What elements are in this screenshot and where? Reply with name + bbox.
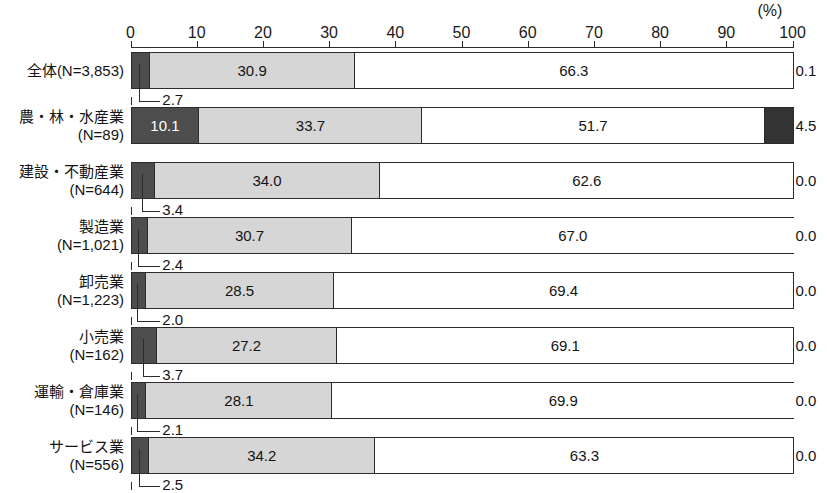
segment-4-outside-value: 0.0 — [796, 447, 817, 464]
x-axis-tick-mark — [528, 41, 529, 47]
callout-elbow — [139, 486, 161, 487]
category-label: 製造業(N=1,021) — [57, 218, 124, 254]
bar-segment-1: 10.1 — [132, 108, 199, 143]
stacked-bar: 2.430.767.00.0 — [131, 217, 794, 254]
bar-segment-3: 62.6 — [379, 163, 793, 198]
segment-value: 67.0 — [558, 227, 587, 244]
x-axis-tick-mark — [726, 41, 727, 47]
x-axis-tick-mark — [594, 41, 595, 47]
stacked-bar: 2.028.569.40.0 — [131, 272, 794, 309]
category-label: 運輸・倉庫業(N=146) — [34, 383, 124, 419]
callout-value: 2.1 — [162, 421, 183, 438]
stacked-bar: 2.534.263.30.0 — [131, 437, 794, 474]
x-axis-tick-label: 10 — [188, 24, 206, 42]
segment-value: 28.5 — [225, 282, 254, 299]
stacked-bar: 10.133.751.74.5 — [131, 107, 794, 144]
category-label-line: 運輸・倉庫業 — [34, 383, 124, 401]
bar-segment-2: 33.7 — [198, 108, 421, 143]
segment-4-outside-value: 0.0 — [796, 282, 817, 299]
x-axis-tick-label: 30 — [320, 24, 338, 42]
callout-stem — [138, 229, 139, 266]
callout-stem — [137, 284, 138, 321]
bar-segment-1: 3.7 — [132, 328, 156, 363]
callout-value: 2.0 — [162, 311, 183, 328]
callout-stem — [139, 449, 140, 486]
callout-origin-tick — [131, 372, 132, 380]
category-label-line: (N=89) — [19, 126, 124, 144]
segment-4-outside-value: 4.5 — [796, 117, 817, 134]
category-label-line: (N=146) — [34, 401, 124, 419]
segment-value: 69.9 — [549, 392, 578, 409]
bar-segment-2: 34.2 — [148, 438, 374, 473]
segment-value: 33.7 — [296, 117, 325, 134]
category-label-line: (N=162) — [69, 346, 124, 364]
callout-stem — [139, 64, 140, 101]
bar-segment-2: 34.0 — [154, 163, 379, 198]
x-axis-tick-mark — [660, 41, 661, 47]
category-label-line: サービス業 — [49, 438, 124, 456]
bar-segment-1: 2.7 — [132, 53, 150, 88]
callout-value: 2.5 — [162, 476, 183, 493]
segment-value: 69.4 — [549, 282, 578, 299]
bar-segment-2: 30.9 — [149, 53, 354, 88]
x-axis-tick-label: 50 — [453, 24, 471, 42]
callout-value: 3.7 — [162, 366, 183, 383]
x-axis-tick-mark — [329, 41, 330, 47]
category-label-line: (N=1,021) — [57, 236, 124, 254]
bar-segment-2: 28.5 — [145, 273, 334, 308]
category-label-line: 製造業 — [57, 218, 124, 236]
segment-value: 27.2 — [232, 337, 261, 354]
x-axis-tick-mark — [197, 41, 198, 47]
category-label-line: (N=644) — [19, 181, 124, 199]
x-axis-tick-label: 80 — [651, 24, 669, 42]
bar-segment-3: 66.3 — [354, 53, 793, 88]
callout-elbow — [137, 321, 160, 322]
x-axis-tick-label: 20 — [254, 24, 272, 42]
segment-value: 62.6 — [572, 172, 601, 189]
category-label-line: 卸売業 — [57, 273, 124, 291]
segment-value: 28.1 — [224, 392, 253, 409]
callout-elbow — [138, 266, 160, 267]
bar-segment-1: 2.4 — [132, 218, 148, 253]
callout-stem — [142, 174, 143, 211]
callout-origin-tick — [131, 97, 132, 105]
x-axis-tick-mark — [462, 41, 463, 47]
category-label: 卸売業(N=1,223) — [57, 273, 124, 309]
category-label-line: (N=556) — [49, 456, 124, 474]
stacked-bar: 3.434.062.60.0 — [131, 162, 794, 199]
stacked-bar: 2.128.169.90.0 — [131, 382, 794, 419]
segment-value: 30.7 — [235, 227, 264, 244]
x-axis-tick-label: 40 — [386, 24, 404, 42]
segment-value: 34.2 — [247, 447, 276, 464]
callout-stem — [143, 339, 144, 376]
segment-4-outside-value: 0.0 — [796, 392, 817, 409]
callout-elbow — [142, 211, 161, 212]
segment-value: 51.7 — [578, 117, 607, 134]
segment-value: 10.1 — [150, 117, 179, 134]
segment-value: 63.3 — [570, 447, 599, 464]
callout-elbow — [137, 431, 160, 432]
callout-origin-tick — [131, 427, 132, 435]
bar-segment-2: 30.7 — [147, 218, 350, 253]
stacked-bar: 2.730.966.30.1 — [131, 52, 794, 89]
segment-4-outside-value: 0.0 — [796, 227, 817, 244]
x-axis-tick-label: 70 — [585, 24, 603, 42]
bar-segment-3: 63.3 — [374, 438, 793, 473]
category-label-line: 全体(N=3,853) — [27, 62, 124, 80]
category-label: 小売業(N=162) — [69, 328, 124, 364]
bar-segment-3: 69.1 — [336, 328, 793, 363]
segment-value: 34.0 — [252, 172, 281, 189]
x-axis-tick-mark — [793, 41, 794, 47]
callout-value: 2.7 — [162, 91, 183, 108]
callout-value: 2.4 — [162, 256, 183, 273]
callout-origin-tick — [131, 262, 132, 270]
bar-segment-3: 67.0 — [351, 218, 795, 253]
callout-stem — [137, 394, 138, 431]
bar-segment-1: 3.4 — [132, 163, 155, 198]
category-label-line: (N=1,223) — [57, 291, 124, 309]
bar-segment-3: 69.4 — [333, 273, 792, 308]
bar-segment-3: 51.7 — [421, 108, 763, 143]
category-label: サービス業(N=556) — [49, 438, 124, 474]
bar-segment-1: 2.5 — [132, 438, 149, 473]
